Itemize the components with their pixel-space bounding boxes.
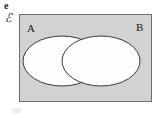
universal-set-rectangle: [19, 14, 152, 102]
scan-artifact: [12, 108, 21, 113]
part-label: e: [4, 1, 8, 11]
universal-set-symbol: ℰ: [5, 12, 12, 24]
set-a-label: A: [27, 23, 35, 34]
venn-diagram-figure: e ℰ A B: [0, 0, 163, 118]
set-b-label: B: [136, 22, 143, 33]
